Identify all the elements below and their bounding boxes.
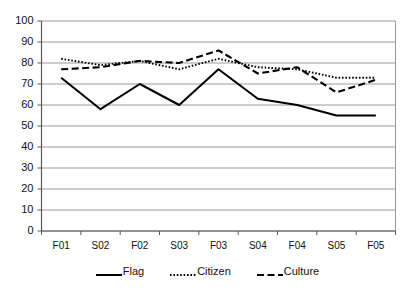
dotted-line-swatch [170,266,196,276]
x-axis-tick-label: S05 [317,241,356,251]
x-axis-tick-label: S04 [238,241,277,251]
x-axis-tick-label: S02 [81,241,120,251]
y-axis-tick-label: 50 [0,120,34,131]
y-axis-tick-label: 0 [0,225,34,236]
legend-item-flag[interactable]: Flag [96,265,144,277]
legend-item-culture[interactable]: Culture [257,265,319,277]
gridlines [42,21,396,231]
series-line-culture [61,50,376,92]
x-axis-tick-label: F01 [42,241,81,251]
y-axis-tick-label: 30 [0,162,34,173]
series-lines [61,50,376,115]
y-axis-tick-label: 10 [0,204,34,215]
dashed-line-swatch [257,266,283,276]
legend-label: Culture [284,265,319,277]
series-line-citizen [61,59,376,78]
x-axis-tick-label: F02 [120,241,159,251]
y-axis-tick-label: 80 [0,57,34,68]
x-axis-tick-label: F05 [356,241,395,251]
x-axis-ticks [42,231,396,235]
chart-legend: FlagCitizenCulture [0,259,415,283]
x-axis-tick-label: F03 [199,241,238,251]
line-chart: 1009080706050403020100 F01S02F02S03F03S0… [0,0,415,291]
y-axis-tick-label: 40 [0,141,34,152]
y-axis-tick-label: 100 [0,15,34,26]
y-axis-tick-label: 70 [0,78,34,89]
legend-item-citizen[interactable]: Citizen [170,265,231,277]
y-axis-tick-label: 60 [0,99,34,110]
solid-line-swatch [96,266,122,276]
x-axis-tick-label: F04 [278,241,317,251]
legend-label: Citizen [197,265,231,277]
x-axis-tick-label: S03 [160,241,199,251]
legend-label: Flag [123,265,144,277]
y-axis-tick-label: 90 [0,36,34,47]
y-axis-tick-label: 20 [0,183,34,194]
